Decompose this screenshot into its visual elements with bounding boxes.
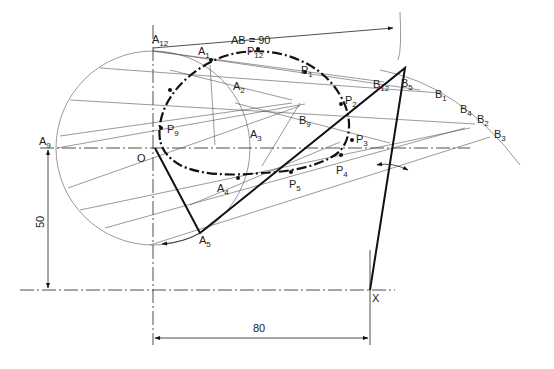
label-P12: P12 [247, 45, 264, 60]
label-O: O [137, 152, 146, 164]
oscillation-arrow [377, 164, 408, 170]
ab-dimension [153, 28, 393, 48]
width-dimension-label: 80 [253, 322, 265, 334]
label-A4: A4 [217, 182, 229, 197]
label-P9: P9 [167, 123, 179, 138]
label-B9: B9 [299, 114, 311, 129]
rotation-arrow [162, 233, 200, 244]
height-dimension-label: 50 [34, 216, 46, 228]
label-A2: A2 [233, 80, 245, 95]
mechanism-links [155, 68, 405, 290]
label-P4: P4 [336, 164, 348, 179]
label-A3: A3 [250, 128, 262, 143]
label-A12: A12 [152, 33, 169, 48]
label-P3: P3 [356, 133, 368, 148]
label-B4: B4 [460, 103, 472, 118]
label-B1: B1 [435, 88, 447, 103]
centre-lines [20, 25, 470, 345]
label-A5: A5 [199, 234, 211, 249]
label-P2: P2 [345, 94, 357, 109]
label-P5: P5 [289, 178, 301, 193]
locus-points [159, 47, 354, 180]
label-B5: B5 [401, 77, 413, 92]
label-X: X [372, 292, 380, 304]
drawing-canvas: AB = 90 50 80 A12 A1 A2 A3 A4 A5 A9 P12 … [0, 0, 554, 369]
labels: AB = 90 50 80 A12 A1 A2 A3 A4 A5 A9 P12 … [34, 33, 506, 334]
label-B2: B2 [477, 113, 489, 128]
